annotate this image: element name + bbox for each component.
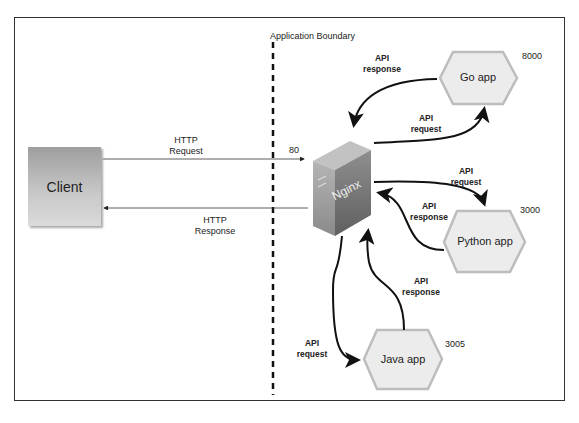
http-response-label: HTTPResponse bbox=[193, 215, 237, 237]
java-request-arrow bbox=[333, 236, 357, 360]
python-request-label: APIrequest bbox=[446, 166, 486, 188]
java-app-port: 3005 bbox=[445, 339, 465, 349]
go-app-port: 8000 bbox=[522, 51, 542, 61]
boundary-label: Application Boundary bbox=[270, 31, 355, 42]
nginx-port: 80 bbox=[289, 145, 299, 155]
java-app-label: Java app bbox=[353, 353, 453, 365]
python-response-label: APIresponse bbox=[405, 201, 453, 223]
client-label: Client bbox=[47, 179, 83, 195]
go-request-label: APIrequest bbox=[406, 113, 446, 135]
python-app-port: 3000 bbox=[520, 205, 540, 215]
http-request-label: HTTPRequest bbox=[166, 135, 206, 157]
client-node: Client bbox=[28, 147, 101, 226]
go-response-label: APIresponse bbox=[357, 53, 407, 75]
java-response-label: APIresponse bbox=[397, 276, 445, 298]
go-app-label: Go app bbox=[428, 71, 528, 83]
java-request-label: APIrequest bbox=[292, 338, 332, 360]
python-app-label: Python app bbox=[435, 235, 535, 247]
